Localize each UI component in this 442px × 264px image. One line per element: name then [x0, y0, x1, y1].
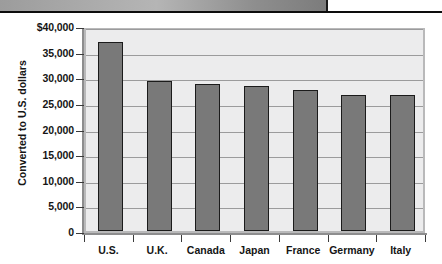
y-axis-tick-label: 0	[68, 226, 74, 238]
x-axis-tick-label: U.K.	[147, 244, 168, 256]
x-axis-tick	[376, 235, 377, 242]
y-axis-tick	[76, 182, 84, 183]
gridline	[86, 80, 423, 81]
y-axis-tick	[76, 207, 84, 208]
y-axis-tick-label-column: 05,00010,00015,00020,00025,00030,00035,0…	[0, 13, 74, 264]
x-axis-tick-label: U.S.	[98, 244, 118, 256]
x-axis-tick-label: Italy	[390, 244, 411, 256]
x-axis-tick	[84, 235, 85, 242]
y-axis-tick-label: 35,000	[42, 47, 74, 59]
x-axis-tick-label: Japan	[239, 244, 269, 256]
y-axis-tick-label: $40,000	[37, 21, 74, 33]
x-axis-tick	[230, 235, 231, 242]
plot-area	[84, 28, 425, 233]
y-axis-tick	[76, 54, 84, 55]
y-axis-tick-label: 10,000	[42, 175, 74, 187]
bar-us	[98, 42, 123, 231]
bar-uk	[147, 81, 172, 231]
y-axis-tick	[76, 156, 84, 157]
bar-italy	[390, 95, 415, 231]
x-axis-tick	[279, 235, 280, 242]
y-axis-tick	[76, 131, 84, 132]
y-axis-tick	[76, 105, 84, 106]
bar-france	[293, 90, 318, 231]
y-axis-tick	[76, 79, 84, 80]
y-axis-tick	[76, 233, 84, 234]
bar-canada	[195, 84, 220, 231]
bar-chart-figure: Converted to U.S. dollars 05,00010,00015…	[0, 13, 442, 264]
x-axis-tick-label: France	[286, 244, 320, 256]
gridline	[86, 55, 423, 56]
x-axis-tick-label: Canada	[187, 244, 225, 256]
y-axis-tick-label: 25,000	[42, 98, 74, 110]
bar-japan	[244, 86, 269, 231]
gridline	[86, 29, 423, 30]
x-axis-tick	[328, 235, 329, 242]
y-axis-tick-label: 20,000	[42, 124, 74, 136]
scanned-page-top-band	[0, 0, 326, 11]
y-axis-tick-label: 5,000	[48, 200, 74, 212]
bar-germany	[341, 95, 366, 231]
x-axis-line	[82, 233, 427, 235]
x-axis-tick	[133, 235, 134, 242]
plot-inner	[86, 30, 423, 231]
y-axis-tick	[76, 28, 84, 29]
x-axis-tick-label: Germany	[329, 244, 375, 256]
y-axis-tick-label: 30,000	[42, 72, 74, 84]
x-axis-tick	[181, 235, 182, 242]
x-axis-tick	[425, 235, 426, 242]
y-axis-tick-label: 15,000	[42, 149, 74, 161]
